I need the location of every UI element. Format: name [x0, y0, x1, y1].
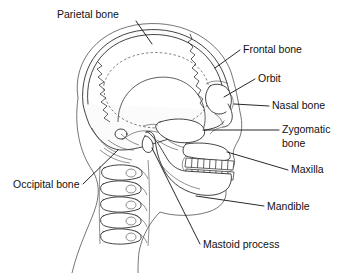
label-maxilla: Maxilla: [291, 163, 324, 175]
label-mastoid-process: Mastoid process: [203, 238, 279, 250]
leader-frontal-bone: [215, 50, 240, 68]
label-zygomatic-bone: Zygomatic: [282, 123, 330, 135]
label-mandible: Mandible: [267, 200, 310, 212]
label-frontal-bone: Frontal bone: [243, 43, 302, 55]
label-nasal-bone: Nasal bone: [272, 99, 325, 111]
cervical-vertebrae: [99, 160, 149, 246]
label-occipital-bone: Occipital bone: [13, 178, 80, 190]
leader-maxilla: [227, 152, 288, 170]
leader-mandible: [196, 196, 264, 206]
label-orbit: Orbit: [258, 72, 281, 84]
skull-diagram: Parietal bone Frontal bone Orbit Nasal b…: [0, 0, 350, 273]
label-parietal-bone: Parietal bone: [57, 8, 119, 20]
label-zygomatic-bone-line2: bone: [282, 137, 306, 149]
